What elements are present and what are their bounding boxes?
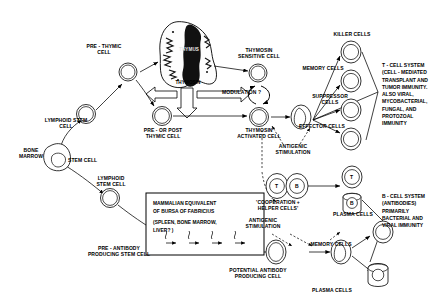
label-killer-cells: KILLER CELLS (322, 32, 382, 38)
pre-thymic-cell (119, 63, 137, 81)
label-stem-cell: STEM CELL (68, 158, 112, 164)
killer-cells (341, 41, 361, 63)
lymphoid-stem-cell-bottom (101, 189, 120, 208)
label-thymosin-activated-cell: THYMOSIN ACTIVATED CELL (226, 128, 292, 139)
label-antigenic-stimulation-top: ANTIGENIC STIMULATION (266, 144, 320, 155)
label-plasma-cells-upper: PLASMA CELLS (324, 212, 382, 218)
label-pre-or-post-thymic-cell: PRE - OR POST THYMIC CELL (128, 128, 198, 139)
label-effector-cells: EFFECTOR CELLS (288, 124, 356, 130)
label-memory-cells-bottom: MEMORY CELLS (300, 242, 362, 248)
thymus-organ (160, 22, 217, 88)
cell-mark-t-plasma: T (350, 174, 353, 180)
cell-mark-b-plasma: B (350, 200, 354, 206)
cell-mark-t: T (275, 183, 278, 189)
label-thymosin: THYMOSIN (164, 80, 212, 85)
thymosin-sensitive-cell (249, 64, 267, 82)
legend-b-cell-system: B - CELL SYSTEM (ANTIBODIES) PRIMARILY B… (382, 193, 448, 229)
label-suppressor-cells: SUPPRESSOR CELLS (302, 94, 358, 105)
label-memory-cells-top: MEMORY CELLS (292, 66, 354, 72)
memory-cells-t (341, 70, 361, 92)
label-thymosin-sensitive-cell: THYMOSIN SENSITIVE CELL (228, 48, 290, 59)
label-modulation: MODULATION ? (222, 90, 278, 96)
plasma-cells-lower (368, 264, 388, 287)
pre-or-post-thymic-cell (153, 107, 172, 126)
label-plasma-cells-lower: PLASMA CELLS (302, 288, 362, 294)
label-lymphoid-stem-cell-top: LYMPHOID STEM CELL (30, 118, 102, 129)
bursa-box-line3: (SPLEEN, BONE MARROW, (153, 219, 259, 226)
cell-mark-b: B (295, 183, 299, 189)
potential-antibody-producing-cell (266, 240, 286, 264)
legend-t-cell-system: T - CELL SYSTEM (CELL - MEDIATED TRANSPL… (382, 62, 448, 127)
label-thymus: THYMUS (168, 47, 210, 52)
bursa-box-line1: MAMMALIAN EQUIVALENT (153, 200, 259, 207)
label-pre-thymic-cell: PRE - THYMIC CELL (76, 44, 132, 55)
label-pre-antibody-producing-stem-cell: PRE - ANTIBODY PRODUCING STEM CELL (76, 246, 162, 257)
effector-cells (341, 128, 361, 150)
label-bone-marrow: BONE MARROW (10, 148, 52, 159)
diagram-canvas (0, 0, 448, 300)
label-lymphoid-stem-cell-bottom: LYMPHOID STEM CELL (84, 176, 138, 187)
thymosin-activated-cell (250, 108, 269, 127)
immunology-diagram: PRE - THYMIC CELL LYMPHOID STEM CELL PRE… (0, 0, 448, 300)
cooperation-helper-cells (266, 174, 308, 199)
bursa-box-line4: LIVER? ) (153, 227, 259, 234)
bursa-box-line2: OF BURSA OF FABRICIUS (153, 208, 259, 215)
label-potential-antibody-producing-cell: POTENTIAL ANTIBODY PRODUCING CELL (216, 268, 300, 279)
